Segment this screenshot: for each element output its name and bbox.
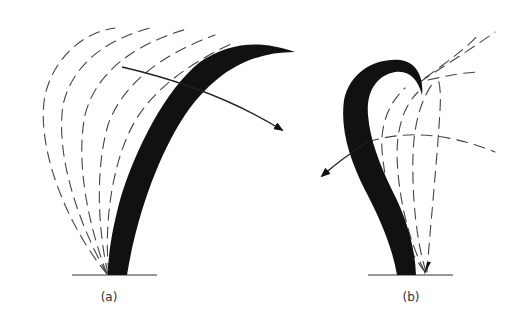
solid-frond-a (108, 45, 295, 275)
panel-b (322, 32, 495, 275)
panel-label-b: (b) (403, 290, 420, 304)
solid-frond-b (343, 60, 422, 275)
diagram-figure: (a) (b) (0, 0, 525, 320)
panel-label-a: (a) (101, 290, 118, 304)
diagram-canvas (0, 0, 525, 320)
panel-a (43, 28, 295, 275)
